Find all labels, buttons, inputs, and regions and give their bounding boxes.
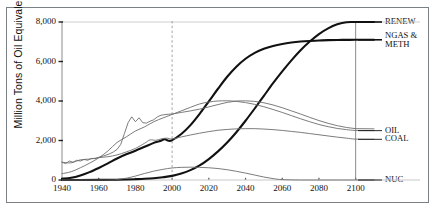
data-curves (62, 22, 374, 180)
annotation-lines (172, 21, 356, 180)
chart-figure: Million Tons of Oil Equivalent 02,0004,0… (0, 0, 435, 211)
chart-plot-area (0, 0, 435, 211)
label-leader-lines (358, 22, 382, 180)
